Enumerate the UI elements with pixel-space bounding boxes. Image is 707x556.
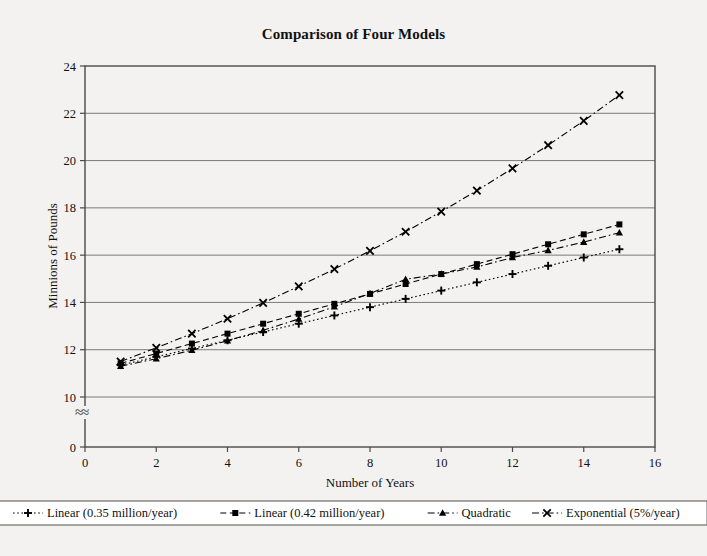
y-tick-label: 18 [64,201,77,215]
x-tick-label: 14 [578,456,591,470]
y-tick-label: 16 [64,249,77,263]
x-axis-label: Number of Years [326,475,414,490]
axis-break-symbol-on-axis: ≈ [81,404,89,420]
y-tick-label: 12 [64,343,77,357]
legend-label: Linear (0.42 million/year) [254,506,384,520]
x-axis-ticks: 0246810121416 [82,447,661,470]
y-tick-label: 14 [64,296,77,310]
x-tick-label: 2 [153,456,159,470]
x-tick-label: 4 [224,456,231,470]
y-tick-label-zero: 0 [70,441,76,455]
y-axis-label: Minnions of Pounds [45,203,60,308]
legend-label: Quadratic [462,506,512,520]
legend-label: Linear (0.35 million/year) [47,506,177,520]
x-tick-label: 12 [506,456,519,470]
data-series-layer [117,91,624,369]
y-tick-label: 24 [64,60,77,74]
y-tick-label: 20 [64,154,77,168]
chart-legend: Linear (0.35 million/year)Linear (0.42 m… [0,501,707,525]
x-tick-label: 10 [435,456,448,470]
y-axis-break-icon: ≈≈ [75,404,89,420]
series-3 [117,91,623,365]
x-tick-label: 0 [82,456,88,470]
chart-canvas: 10121416182022240 0246810121416 ≈≈ Minni… [0,0,707,556]
x-tick-label: 6 [296,456,302,470]
x-tick-label: 16 [649,456,662,470]
plot-frame [85,66,655,447]
gridlines [85,113,655,397]
y-tick-label: 10 [64,391,77,405]
legend-label: Exponential (5%/year) [566,506,680,520]
x-tick-label: 8 [367,456,373,470]
y-tick-label: 22 [64,107,77,121]
y-axis-ticks: 10121416182022240 [64,60,86,455]
